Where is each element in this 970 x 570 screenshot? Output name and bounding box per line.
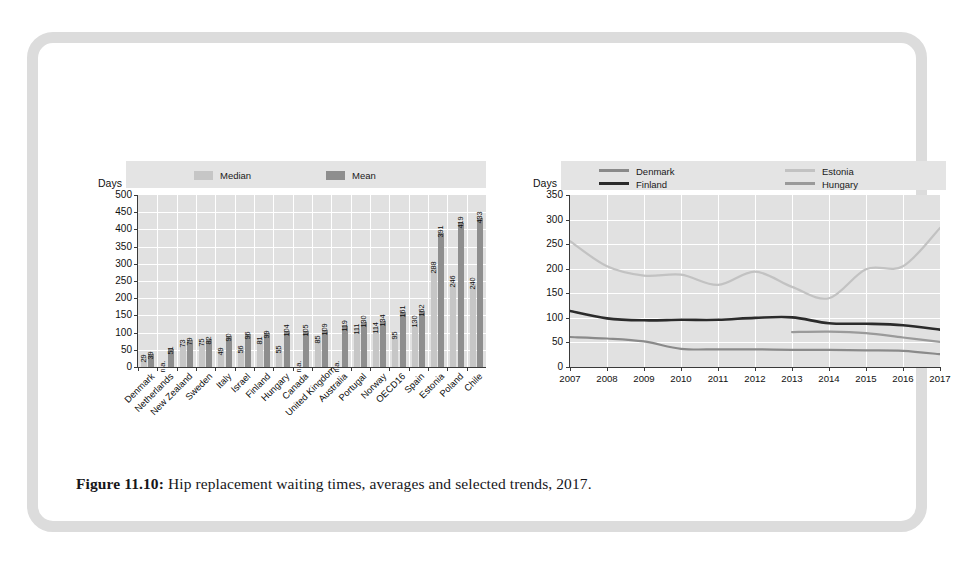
bar-chart-x-tickmark <box>215 367 216 371</box>
bar-value-median-australia: n.a. <box>333 361 340 373</box>
bar-value-mean-israel: 96 <box>244 332 251 340</box>
bar-median-norway <box>373 328 379 367</box>
bar-chart-x-tickmark <box>138 367 139 371</box>
legend-swatch-estonia <box>785 169 815 172</box>
bar-chart-gridline-v <box>331 195 332 367</box>
bar-chart-gridline-v <box>370 195 371 367</box>
bar-value-mean-spain: 162 <box>418 305 425 317</box>
line-chart-x-tick-2007: 2007 <box>552 374 588 384</box>
bar-chart-gridline-v <box>409 195 410 367</box>
bar-value-median-canada: n.a. <box>294 361 301 373</box>
bar-value-mean-poland: 419 <box>456 217 463 229</box>
bar-chart-y-tickmark-250 <box>134 281 138 282</box>
line-chart-y-tick-200: 200 <box>533 264 563 274</box>
line-chart-x-tick-2015: 2015 <box>848 374 884 384</box>
line-chart-y-tickmark-200 <box>566 269 570 270</box>
bar-median-estonia <box>431 268 437 367</box>
line-chart-y-tick-250: 250 <box>533 239 563 249</box>
legend-label-denmark: Denmark <box>636 166 675 177</box>
bar-chart-x-tickmark <box>351 367 352 371</box>
line-chart-x-tick-2016: 2016 <box>885 374 921 384</box>
bar-value-mean-denmark: 39 <box>147 351 154 359</box>
line-chart-x-tick-2011: 2011 <box>700 374 736 384</box>
bar-chart-y-tick-500: 500 <box>98 190 132 200</box>
line-chart-y-tick-150: 150 <box>533 288 563 298</box>
bar-value-mean-norway: 134 <box>379 315 386 327</box>
bar-chart-y-tickmark-300 <box>134 264 138 265</box>
bar-value-mean-canada: 105 <box>302 325 309 337</box>
figure-frame: Days MedianMean0501001502002503003504004… <box>27 32 927 532</box>
line-chart-x-tickmark-2010 <box>681 367 682 371</box>
line-chart-x-tickmark-2013 <box>792 367 793 371</box>
bar-median-chile <box>470 284 476 367</box>
bar-chart-y-tickmark-400 <box>134 229 138 230</box>
bar-chart-x-tickmark <box>447 367 448 371</box>
bar-chart-x-tickmark <box>254 367 255 371</box>
line-legend-item-estonia: Estonia <box>785 165 854 177</box>
line-chart-y-tickmark-150 <box>566 293 570 294</box>
bar-chart-gridline-v <box>215 195 216 367</box>
bar-value-mean-sweden: 82 <box>205 336 212 344</box>
bar-value-median-united-kingdom: 85 <box>314 335 321 343</box>
bar-chart-y-tickmark-450 <box>134 212 138 213</box>
bar-chart-y-tick-450: 450 <box>98 207 132 217</box>
line-chart-y-tick-0: 0 <box>533 362 563 372</box>
bar-value-mean-portugal: 130 <box>360 316 367 328</box>
line-series-finland <box>570 311 940 330</box>
bar-chart-y-tickmark-200 <box>134 298 138 299</box>
bar-chart-y-tick-300: 300 <box>98 259 132 269</box>
bar-mean-estonia <box>438 233 444 368</box>
bar-chart-y-tick-100: 100 <box>98 328 132 338</box>
line-chart-series-layer <box>570 195 940 367</box>
figure-body: Days MedianMean0501001502002503003504004… <box>38 43 916 461</box>
line-chart-y-tickmark-100 <box>566 318 570 319</box>
line-chart-y-tick-100: 100 <box>533 313 563 323</box>
line-chart-x-tickmark-2017 <box>940 367 941 371</box>
bar-chart-y-axis-title: Days <box>98 177 122 189</box>
bar-value-median-oecd16: 95 <box>391 332 398 340</box>
figure-caption-text: Hip replacement waiting times, averages … <box>168 475 592 492</box>
bar-chart-y-tick-50: 50 <box>98 345 132 355</box>
legend-label-median: Median <box>220 170 251 181</box>
legend-label-estonia: Estonia <box>822 166 854 177</box>
line-chart-y-tickmark-250 <box>566 244 570 245</box>
bar-chart-y-tickmark-50 <box>134 350 138 351</box>
legend-swatch-denmark <box>599 169 629 172</box>
bar-median-portugal <box>354 329 360 367</box>
bar-value-mean-netherlands: 51 <box>166 347 173 355</box>
legend-swatch-finland <box>599 182 629 185</box>
line-chart-y-axis-title: Days <box>533 177 557 189</box>
bar-chart-gridline-v <box>351 195 352 367</box>
bar-chart-legend <box>126 161 486 188</box>
legend-label-mean: Mean <box>352 170 376 181</box>
bar-value-mean-united-kingdom: 109 <box>321 323 328 335</box>
bar-value-median-netherlands: n.a. <box>159 361 166 373</box>
bar-value-mean-australia: 119 <box>340 320 347 331</box>
legend-swatch-median <box>194 171 213 180</box>
bar-chart-gridline-v <box>273 195 274 367</box>
line-chart-y-tick-50: 50 <box>533 337 563 347</box>
line-chart-x-tickmark-2015 <box>866 367 867 371</box>
line-legend-item-hungary: Hungary <box>785 178 858 190</box>
line-chart-y-tickmark-350 <box>566 195 570 196</box>
line-chart-y-tickmark-50 <box>566 342 570 343</box>
bar-chart-y-tickmark-100 <box>134 333 138 334</box>
bar-chart-gridline-v <box>428 195 429 367</box>
bar-chart-gridline-v <box>235 195 236 367</box>
bar-mean-poland <box>458 223 464 367</box>
bar-chart-x-tickmark <box>196 367 197 371</box>
bar-value-median-israel: 56 <box>236 345 243 353</box>
bar-value-mean-italy: 90 <box>224 334 231 342</box>
line-chart-x-tick-2012: 2012 <box>737 374 773 384</box>
bar-value-median-italy: 49 <box>217 348 224 356</box>
legend-swatch-hungary <box>785 182 815 185</box>
bar-value-mean-oecd16: 161 <box>398 305 405 317</box>
bar-value-median-spain: 130 <box>410 316 417 328</box>
legend-label-finland: Finland <box>636 179 667 190</box>
line-chart-x-tickmark-2009 <box>644 367 645 371</box>
bar-value-median-estonia: 288 <box>430 262 437 274</box>
line-chart-x-tick-2013: 2013 <box>774 374 810 384</box>
line-chart-y-tickmark-300 <box>566 220 570 221</box>
bar-median-poland <box>450 282 456 367</box>
line-series-denmark <box>570 337 940 354</box>
